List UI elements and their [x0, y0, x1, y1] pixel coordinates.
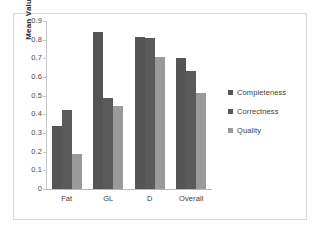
legend-item[interactable]: Correctness — [228, 107, 286, 116]
legend-item[interactable]: Completeness — [228, 88, 286, 97]
bar[interactable] — [135, 37, 145, 189]
legend-item[interactable]: Quality — [228, 126, 286, 135]
x-axis-label: Fat — [46, 194, 88, 203]
bar-group — [171, 21, 213, 189]
bar[interactable] — [93, 32, 103, 189]
legend-swatch-icon — [228, 90, 233, 95]
bar-group — [88, 21, 130, 189]
y-tick-label: 0.1 — [31, 165, 42, 174]
x-axis-labels: FatGLDOverall — [46, 194, 212, 203]
bar[interactable] — [103, 98, 113, 189]
bar[interactable] — [52, 126, 62, 189]
y-tick-label: 0.2 — [31, 147, 42, 156]
bar[interactable] — [186, 71, 196, 189]
y-tick-label: 0.4 — [31, 109, 42, 118]
bar[interactable] — [176, 58, 186, 189]
bar[interactable] — [72, 154, 82, 189]
y-tick-label: 0.9 — [31, 16, 42, 25]
legend-label: Quality — [237, 126, 261, 135]
bar[interactable] — [62, 110, 72, 189]
x-axis-label: Overall — [171, 194, 213, 203]
bar[interactable] — [113, 106, 123, 189]
legend-swatch-icon — [228, 109, 233, 114]
legend-swatch-icon — [228, 128, 233, 133]
y-tick-label: 0.8 — [31, 35, 42, 44]
y-tick-mark — [43, 189, 46, 190]
y-tick-label: 0.6 — [31, 72, 42, 81]
x-axis-line — [46, 189, 212, 190]
y-tick-label: 0 — [38, 184, 42, 193]
bar[interactable] — [196, 93, 206, 189]
legend-label: Correctness — [237, 107, 279, 116]
x-axis-label: D — [129, 194, 171, 203]
legend-label: Completeness — [237, 88, 286, 97]
legend: CompletenessCorrectnessQuality — [228, 88, 286, 135]
bar-group — [129, 21, 171, 189]
bar[interactable] — [155, 57, 165, 189]
x-axis-label: GL — [88, 194, 130, 203]
y-tick-label: 0.5 — [31, 91, 42, 100]
y-tick-label: 0.3 — [31, 128, 42, 137]
bar-group — [46, 21, 88, 189]
bar-groups — [46, 21, 212, 189]
y-tick-label: 0.7 — [31, 53, 42, 62]
bar[interactable] — [145, 38, 155, 189]
